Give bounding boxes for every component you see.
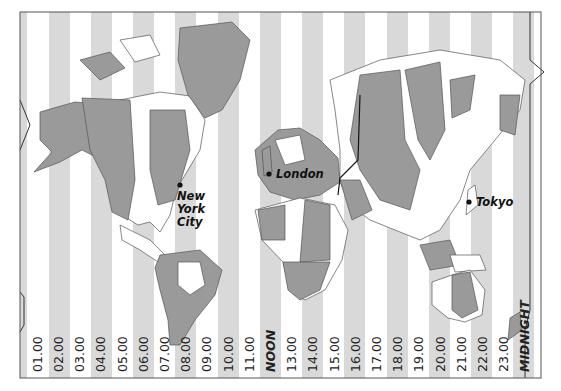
svg-text:18.00: 18.00 <box>390 336 405 372</box>
svg-text:York: York <box>177 202 206 216</box>
svg-text:15.00: 15.00 <box>327 336 342 372</box>
svg-text:01.00: 01.00 <box>30 336 45 372</box>
svg-text:17.00: 17.00 <box>369 336 384 372</box>
svg-text:05.00: 05.00 <box>115 336 130 372</box>
city-dot <box>466 199 471 204</box>
svg-text:02.00: 02.00 <box>51 336 66 372</box>
svg-text:22.00: 22.00 <box>475 336 490 372</box>
svg-text:20.00: 20.00 <box>433 336 448 372</box>
svg-text:13.00: 13.00 <box>284 336 299 372</box>
svg-text:19.00: 19.00 <box>411 336 426 372</box>
svg-text:14.00: 14.00 <box>305 336 320 372</box>
svg-text:08.00: 08.00 <box>178 336 193 372</box>
svg-text:New: New <box>177 189 205 203</box>
city-dot <box>266 171 271 176</box>
svg-text:NOON: NOON <box>263 329 278 372</box>
svg-text:London: London <box>276 167 324 181</box>
svg-text:06.00: 06.00 <box>136 336 151 372</box>
svg-text:11.00: 11.00 <box>242 336 257 372</box>
svg-text:MIDNIGHT: MIDNIGHT <box>517 299 532 372</box>
svg-text:10.00: 10.00 <box>221 336 236 372</box>
city-dot <box>177 182 182 187</box>
svg-text:City: City <box>177 215 203 229</box>
svg-text:07.00: 07.00 <box>157 336 172 372</box>
svg-text:09.00: 09.00 <box>199 336 214 372</box>
svg-text:Tokyo: Tokyo <box>476 195 513 209</box>
svg-text:03.00: 03.00 <box>72 336 87 372</box>
svg-text:21.00: 21.00 <box>454 336 469 372</box>
world-time-zone-map: New York City London Tokyo 01.00 02.00 0… <box>0 0 561 391</box>
svg-text:04.00: 04.00 <box>93 336 108 372</box>
svg-text:23.00: 23.00 <box>496 336 511 372</box>
svg-text:16.00: 16.00 <box>348 336 363 372</box>
city-new-york: New York City <box>177 182 206 229</box>
